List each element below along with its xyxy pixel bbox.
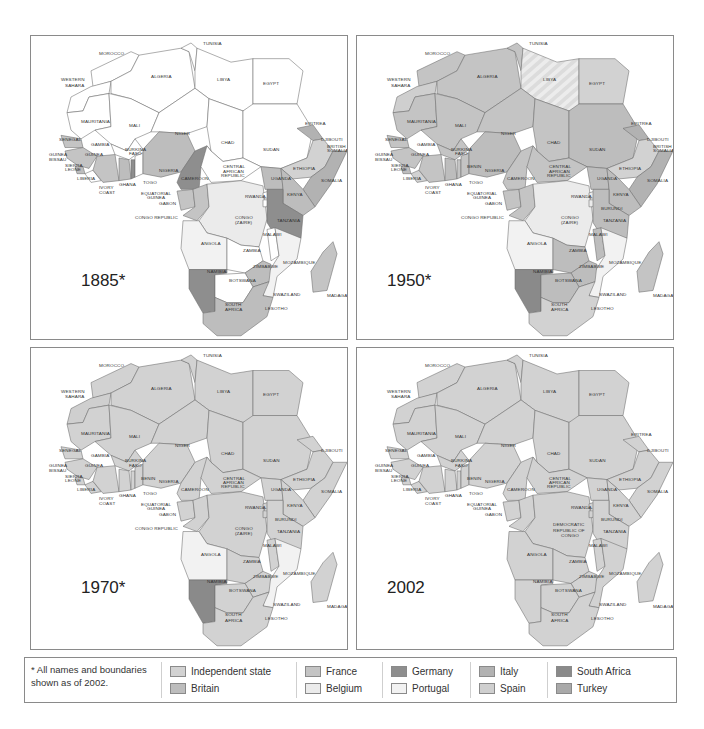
label-sudan: SUDAN — [263, 147, 280, 152]
label-algeria: ALGERIA — [151, 386, 172, 391]
label-sudan: SUDAN — [589, 147, 606, 152]
label-tanzania: TANZANIA — [603, 530, 626, 535]
region-sudan — [569, 416, 639, 480]
label-ghana: GHANA — [445, 182, 462, 187]
label-burundi: BURUNDI — [601, 207, 623, 212]
label-nigeria: NIGERIA — [485, 168, 505, 173]
swatch-spain — [479, 683, 495, 694]
label-guinea: GUINEA — [411, 464, 429, 469]
label-chad: CHAD — [221, 140, 234, 145]
label-ghana: GHANA — [119, 182, 136, 187]
label-western-sahara-2: SAHARA — [65, 83, 84, 88]
label-tunisia: TUNISIA — [203, 41, 222, 46]
label-djibouti: DJIBOUTI — [321, 137, 343, 142]
label-ivory-coast-2: COAST — [425, 501, 442, 506]
label-gambia: GAMBIA — [91, 453, 110, 458]
label-djibouti: DJIBOUTI — [647, 137, 669, 142]
label-eq-guinea-2: GUINEA — [473, 506, 491, 511]
label-tanzania: TANZANIA — [277, 530, 300, 535]
africa-map: MOROCCOTUNISIAWESTERNSAHARAALGERIALIBYAE… — [31, 36, 348, 340]
label-botswana: BOTSWANA — [229, 278, 256, 283]
region-madagascar — [637, 242, 663, 293]
label-niger: NIGER — [175, 443, 190, 448]
label-madagascar: MADAGASCAR — [327, 604, 348, 609]
label-zambia: ZAMBIA — [243, 248, 261, 253]
label-togo: TOGO — [469, 180, 483, 185]
label-eq-guinea-2: GUINEA — [147, 506, 165, 511]
label-swaziland: SWAZILAND — [599, 602, 627, 607]
label-togo: TOGO — [143, 180, 157, 185]
label-burkina-2: FASO — [129, 152, 142, 157]
legend-group-4: Italy Spain — [470, 662, 548, 698]
label-cameroon: CAMEROON — [507, 176, 535, 181]
label-eritrea: ERITREA — [631, 121, 652, 126]
map-year-label: 2002 — [387, 578, 425, 598]
label-guinea-bissau-2: BISSAU — [49, 157, 66, 162]
label-sierra-leone-2: LEONE — [391, 167, 407, 172]
label-western-sahara-2: SAHARA — [391, 395, 411, 400]
label-madagascar: MADAGASCAR — [653, 604, 674, 609]
label-western-sahara-2: SAHARA — [65, 395, 85, 400]
label-namibia: NAMIBIA — [207, 269, 227, 274]
region-togo — [457, 471, 461, 490]
label-botswana: BOTSWANA — [229, 588, 256, 593]
legend-group-5: South Africa Turkey — [547, 662, 676, 698]
label-mali: MALI — [129, 434, 140, 439]
label-british-somalia-2: SOMALIA — [327, 148, 348, 153]
label-rwanda: RWANDA — [571, 194, 592, 199]
label-tunisia: TUNISIA — [203, 353, 222, 358]
label-lesotho: LESOTHO — [591, 616, 614, 621]
label-eq-guinea-2: GUINEA — [473, 195, 491, 200]
label-gabon: GABON — [485, 201, 502, 206]
legend-item-independent: Independent state — [170, 664, 271, 679]
label-botswana: BOTSWANA — [555, 588, 582, 593]
label-kenya: KENYA — [287, 193, 303, 198]
label-cameroon: CAMEROON — [181, 176, 209, 181]
label-angola: ANGOLA — [201, 241, 221, 246]
label-botswana: BOTSWANA — [555, 278, 582, 283]
label-ivory-coast-2: COAST — [425, 190, 442, 195]
label-gambia: GAMBIA — [91, 142, 109, 147]
label-zambia: ZAMBIA — [569, 248, 587, 253]
legend-item-turkey: Turkey — [556, 681, 607, 696]
label-western-sahara-1: WESTERN — [387, 78, 411, 83]
label-car-3: REPUBLIC — [221, 173, 245, 178]
label-swaziland: SWAZILAND — [273, 602, 301, 607]
label-eq-guinea-2: GUINEA — [147, 195, 165, 200]
region-benin — [135, 153, 143, 177]
label-zambia: ZAMBIA — [569, 559, 587, 564]
label-south-africa-2: AFRICA — [225, 308, 242, 313]
label-somalia: SOMALIA — [321, 490, 342, 495]
label-morocco: MOROCCO — [99, 51, 125, 56]
label-guinea-bissau-2: BISSAU — [375, 468, 392, 473]
legend-group-1: Independent state Britain — [161, 662, 297, 698]
legend-item-france: France — [305, 664, 357, 679]
africa-map: MOROCCOTUNISIAWESTERNSAHARAALGERIALIBYAE… — [357, 36, 674, 340]
legend-footnote: * All names and boundaries shown as of 2… — [31, 663, 159, 689]
label-car-3: REPUBLIC — [221, 485, 245, 490]
swatch-south-africa — [556, 666, 572, 677]
label-togo: TOGO — [469, 491, 483, 496]
label-mauritania: MAURITANIA — [81, 119, 110, 124]
label-malawi: MALAWI — [589, 233, 608, 238]
label-libya: LIBYA — [543, 389, 556, 394]
legend-group-3: Germany Portugal — [382, 662, 471, 698]
label-western-sahara-2: SAHARA — [391, 83, 410, 88]
label-senegal: SENEGAL — [385, 448, 408, 453]
label-benin: BENIN — [141, 476, 156, 481]
label-egypt: EGYPT — [589, 81, 605, 86]
label-benin: BENIN — [467, 476, 482, 481]
swatch-belgium — [305, 683, 321, 694]
legend: * All names and boundaries shown as of 2… — [24, 657, 677, 703]
label-algeria: ALGERIA — [477, 74, 498, 79]
label-mozambique: MOZAMBIQUE — [283, 571, 315, 576]
label-namibia: NAMIBIA — [533, 269, 553, 274]
label-chad: CHAD — [547, 452, 560, 457]
label-ivory-coast-2: COAST — [99, 501, 116, 506]
label-sudan: SUDAN — [263, 459, 280, 464]
label-ethiopia: ETHIOPIA — [293, 478, 315, 483]
label-morocco: MOROCCO — [425, 51, 451, 56]
swatch-independent — [170, 666, 186, 677]
label-congo-2: (ZAIRE) — [235, 531, 253, 536]
label-gabon: GABON — [159, 512, 176, 517]
